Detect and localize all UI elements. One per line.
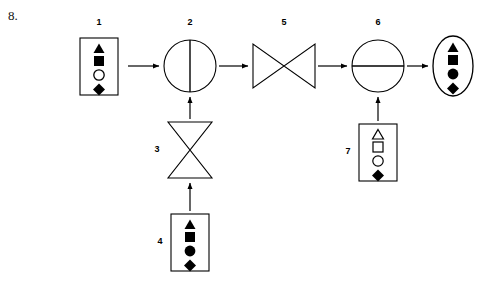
node-7-square-open-icon — [373, 142, 383, 152]
node-6-label: 6 — [371, 17, 385, 27]
node-1-circle-open-icon — [94, 70, 104, 80]
node-1-label: 1 — [92, 17, 106, 27]
node-1-square-solid-icon — [94, 56, 104, 66]
node-3-group[interactable] — [168, 122, 212, 178]
node-3-hourglass-vertical[interactable] — [168, 122, 212, 178]
flow-diagram-canvas — [0, 0, 486, 281]
node-5-hourglass-horizontal[interactable] — [253, 44, 315, 88]
node-output-group[interactable] — [433, 36, 473, 96]
node-7-label: 7 — [341, 146, 355, 156]
node-4-group[interactable] — [171, 214, 209, 272]
node-output-circle-solid-icon — [448, 69, 459, 80]
node-6-group[interactable] — [352, 40, 404, 92]
node-4-square-solid-icon — [185, 232, 195, 242]
node-4-circle-solid-icon — [185, 246, 196, 257]
node-output-square-solid-icon — [448, 55, 458, 65]
node-5-label: 5 — [277, 17, 291, 27]
node-4-label: 4 — [153, 236, 167, 246]
node-3-label: 3 — [150, 144, 164, 154]
node-7-group[interactable] — [359, 124, 397, 182]
node-2-group[interactable] — [164, 40, 216, 92]
node-2-label: 2 — [183, 17, 197, 27]
node-1-group[interactable] — [80, 38, 118, 96]
node-5-group[interactable] — [253, 44, 315, 88]
node-7-circle-open-icon — [373, 156, 383, 166]
